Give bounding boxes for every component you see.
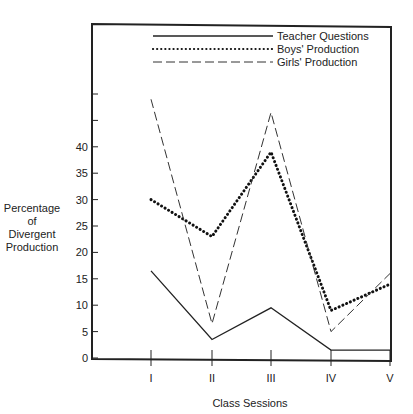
axis-labels: PercentageofDivergentProductionClass Ses… <box>4 202 288 409</box>
y-tick-label: 25 <box>76 220 88 232</box>
x-tick-label: V <box>386 372 394 384</box>
y-tick-label: 30 <box>76 194 88 206</box>
legend: Teacher QuestionsBoys' ProductionGirls' … <box>153 30 369 68</box>
x-tick-label: IV <box>326 372 337 384</box>
x-tick-label: II <box>209 372 215 384</box>
legend-label: Girls' Production <box>277 56 357 68</box>
legend-label: Teacher Questions <box>277 30 369 42</box>
series-line <box>151 99 390 331</box>
y-axis: 0510152025303540 <box>76 94 98 364</box>
y-tick-label: 40 <box>76 141 88 153</box>
legend-label: Boys' Production <box>277 43 359 55</box>
data-series <box>151 99 390 350</box>
y-tick-label: 20 <box>76 246 88 258</box>
x-axis-label: Class Sessions <box>212 397 288 409</box>
x-tick-label: III <box>266 372 275 384</box>
x-tick-label: I <box>149 372 152 384</box>
y-axis-label: Percentage <box>4 202 60 214</box>
y-tick-label: 0 <box>82 352 88 364</box>
y-tick-label: 35 <box>76 167 88 179</box>
y-tick-label: 15 <box>76 273 88 285</box>
y-axis-label: Divergent <box>8 228 55 240</box>
line-chart: 0510152025303540 IIIIIIIVV Teacher Quest… <box>0 0 413 414</box>
y-tick-label: 10 <box>76 299 88 311</box>
y-axis-label: Production <box>6 241 59 253</box>
y-axis-label: of <box>27 215 37 227</box>
plot-frame <box>92 24 391 361</box>
series-line <box>151 271 390 350</box>
x-axis: IIIIIIIVV <box>149 350 394 384</box>
y-tick-label: 5 <box>82 326 88 338</box>
